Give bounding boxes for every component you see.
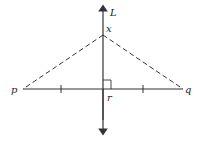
label-p: p bbox=[11, 84, 18, 95]
label-x: x bbox=[106, 23, 112, 34]
label-L: L bbox=[109, 7, 117, 18]
label-q: q bbox=[185, 84, 191, 95]
label-r: r bbox=[107, 92, 113, 103]
dashed-segment-xq bbox=[103, 35, 183, 89]
perpendicular-bisector-diagram: L x r p q bbox=[0, 0, 201, 143]
right-angle-marker bbox=[103, 80, 111, 89]
dashed-segment-xp bbox=[23, 35, 103, 89]
